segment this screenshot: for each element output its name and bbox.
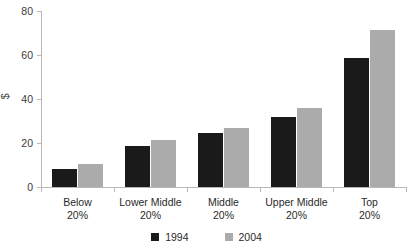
plot-area <box>41 11 406 187</box>
bar-series1-4 <box>344 58 369 187</box>
bar-series1-3 <box>271 117 296 187</box>
legend-swatch-icon <box>151 233 159 241</box>
legend-label: 1994 <box>165 231 188 243</box>
category-label-line1: Middle <box>208 196 239 208</box>
bar-series1-0 <box>52 169 77 187</box>
legend-item-2004[interactable]: 2004 <box>225 231 262 243</box>
bar-series2-1 <box>151 140 176 187</box>
y-axis-tick-label: 20 <box>0 138 33 149</box>
category-label-line2: 20% <box>333 209 406 222</box>
category-label-1: Lower Middle20% <box>114 196 187 221</box>
chart-legend: 19942004 <box>0 231 413 243</box>
bar-chart: $ 020406080 Below20%Lower Middle20%Middl… <box>0 0 413 249</box>
clipped-title-strip <box>0 0 413 2</box>
category-label-0: Below20% <box>41 196 114 221</box>
x-axis-tick <box>114 187 115 192</box>
category-label-3: Upper Middle20% <box>260 196 333 221</box>
bar-series1-2 <box>198 133 223 187</box>
bar-series2-2 <box>224 128 249 187</box>
x-axis-tick <box>260 187 261 192</box>
y-axis-tick-label: 40 <box>0 94 33 105</box>
legend-label: 2004 <box>239 231 262 243</box>
category-label-line1: Lower Middle <box>119 196 181 208</box>
category-label-line1: Top <box>361 196 378 208</box>
category-label-line1: Below <box>63 196 92 208</box>
category-label-2: Middle20% <box>187 196 260 221</box>
x-axis-tick <box>41 187 42 192</box>
bar-series2-4 <box>370 30 395 187</box>
x-axis-tick <box>406 187 407 192</box>
bar-series2-3 <box>297 108 322 187</box>
bar-series2-0 <box>78 164 103 187</box>
x-axis-tick <box>187 187 188 192</box>
category-label-line2: 20% <box>260 209 333 222</box>
category-label-line2: 20% <box>187 209 260 222</box>
category-label-4: Top20% <box>333 196 406 221</box>
y-axis-tick-label: 80 <box>0 6 33 17</box>
category-label-line2: 20% <box>114 209 187 222</box>
category-label-line1: Upper Middle <box>265 196 327 208</box>
x-axis-line <box>41 187 407 188</box>
legend-swatch-icon <box>225 233 233 241</box>
x-axis-tick <box>333 187 334 192</box>
legend-item-1994[interactable]: 1994 <box>151 231 188 243</box>
category-label-line2: 20% <box>41 209 114 222</box>
y-axis-tick-label: 0 <box>0 182 33 193</box>
bar-series1-1 <box>125 146 150 187</box>
y-axis-tick-label: 60 <box>0 50 33 61</box>
